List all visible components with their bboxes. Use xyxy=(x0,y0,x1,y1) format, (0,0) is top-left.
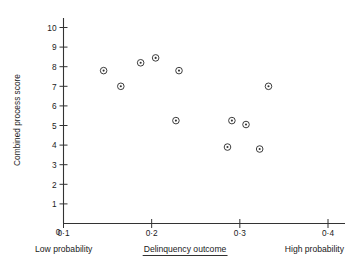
y-tick-label: 1 xyxy=(52,199,57,209)
y-tick-label: 7 xyxy=(52,82,57,92)
data-point-marker xyxy=(256,146,263,153)
x-tick-label: 0·4 xyxy=(322,228,334,238)
marker-dot xyxy=(245,123,247,125)
marker-dot xyxy=(231,120,233,122)
marker-dot xyxy=(175,120,177,122)
marker-dot xyxy=(155,57,157,59)
data-point-marker xyxy=(152,55,159,62)
marker-dot xyxy=(226,146,228,148)
origin-tick-label: 0 xyxy=(56,227,61,237)
x-tick-label: 0·2 xyxy=(146,228,158,238)
x-tick-label: 0·3 xyxy=(234,228,246,238)
data-point-marker xyxy=(176,67,183,74)
data-point-marker xyxy=(265,83,272,90)
data-point-marker xyxy=(118,83,125,90)
y-tick-label: 5 xyxy=(52,121,57,131)
y-axis-title-group: Combined process score xyxy=(12,74,22,166)
data-point-marker xyxy=(224,144,231,151)
caption-high-probability: High probability xyxy=(285,244,345,254)
data-point-group xyxy=(100,55,271,153)
x-axis-captions: Low probability Delinquency outcome High… xyxy=(35,244,345,256)
plot-canvas: Combined process score 12345678910 0·10·… xyxy=(0,0,350,265)
data-point-marker xyxy=(137,59,144,66)
y-axis-title: Combined process score xyxy=(12,74,22,166)
x-axis-title: Delinquency outcome xyxy=(144,244,227,254)
x-tick-group: 0·10·20·30·4 xyxy=(58,219,335,238)
y-tick-label: 2 xyxy=(52,180,57,190)
y-tick-label: 4 xyxy=(52,140,57,150)
y-tick-label: 9 xyxy=(52,42,57,52)
y-tick-label: 10 xyxy=(47,23,57,33)
marker-dot xyxy=(103,70,105,72)
marker-dot xyxy=(120,85,122,87)
data-point-marker xyxy=(229,117,236,124)
marker-dot xyxy=(259,148,261,150)
y-tick-group: 12345678910 xyxy=(47,23,67,209)
data-point-marker xyxy=(173,117,180,124)
scatter-plot-figure: Combined process score 12345678910 0·10·… xyxy=(0,0,350,265)
data-point-marker xyxy=(243,121,250,128)
y-tick-label: 8 xyxy=(52,62,57,72)
marker-dot xyxy=(178,70,180,72)
caption-low-probability: Low probability xyxy=(35,244,93,254)
axis-lines xyxy=(63,18,345,224)
y-tick-label: 6 xyxy=(52,101,57,111)
marker-dot xyxy=(267,85,269,87)
marker-dot xyxy=(140,62,142,64)
y-tick-label: 3 xyxy=(52,160,57,170)
data-point-marker xyxy=(100,67,107,74)
